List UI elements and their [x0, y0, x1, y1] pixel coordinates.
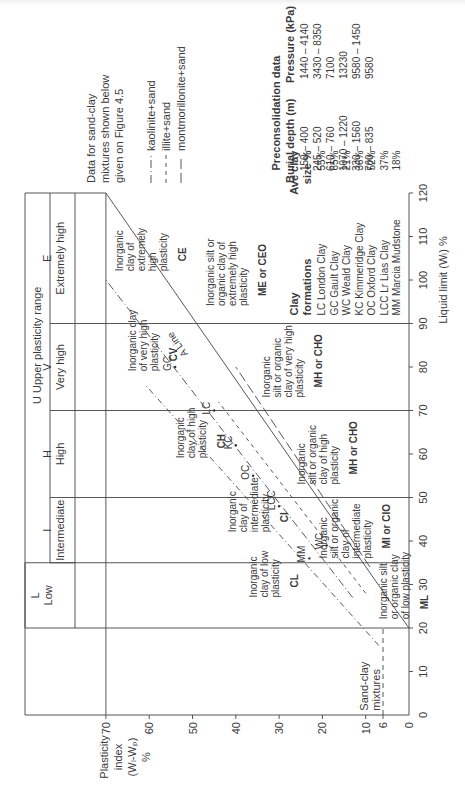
zone-label: organic clay of — [216, 241, 227, 306]
clay-point-label: MM — [296, 546, 307, 563]
zone-label: plasticity — [329, 446, 340, 484]
formation-clay-size: 55% — [316, 150, 327, 170]
formation-name: MM Marcia Mudstone — [391, 219, 402, 316]
preconsolidation-title: Preconsolidation data — [270, 55, 282, 171]
range-name-E: Extremely high — [54, 222, 66, 295]
zone-label: clay of — [340, 529, 351, 558]
clay-point-LCC — [278, 505, 280, 507]
zone-label: clay of high — [318, 434, 329, 485]
formation-name: GC Gault Clay — [329, 251, 340, 315]
zone-label: Inorganic silt — [378, 563, 389, 619]
zone-label: extremely — [136, 228, 147, 271]
zone-label: plasticity — [362, 520, 373, 558]
y-tick-label: 30 — [273, 722, 285, 734]
zone-label: plasticity — [270, 559, 281, 597]
clay-point-label: LC — [201, 402, 212, 415]
formation-clay-size: 21% — [341, 150, 352, 170]
formations-header: Ave clay — [288, 150, 300, 195]
x-tick-label: 10 — [417, 665, 429, 677]
y-tick-label: 10 — [360, 722, 372, 734]
zone-label: clay of very high — [283, 325, 294, 397]
zone-label: clay of high — [186, 408, 197, 459]
zone-label: Inorganic — [114, 230, 125, 271]
zone-label: extremely high — [227, 241, 238, 306]
zone-label: plasticity — [149, 333, 160, 371]
zone-label: plasticity — [238, 268, 249, 306]
formation-name: LC London Clay — [316, 244, 327, 316]
x-tick-label: 120 — [417, 184, 429, 202]
x-tick-label: 50 — [417, 491, 429, 503]
zone-label: plasticity — [158, 233, 169, 271]
preconsolidation-pressure: 9580 — [364, 56, 375, 79]
formations-header: formations — [301, 259, 313, 316]
legend-note: mixtures shown below — [99, 75, 111, 183]
clay-point-KC — [235, 444, 237, 446]
zone-label: silt or organic — [272, 338, 283, 397]
range-name-V: Very high — [54, 344, 66, 390]
legend-note: Data for sand-clay — [85, 93, 97, 183]
x-tick-label: 60 — [417, 448, 429, 460]
plasticity-chart: 1020304050607080901001101200610203040506… — [0, 0, 465, 809]
formation-clay-size: 65% — [329, 150, 340, 170]
sand-clay-label: Sand-clay — [358, 661, 370, 710]
zone-label: intermediate — [249, 477, 260, 532]
y-tick-label: 0 — [403, 722, 415, 728]
legend-item: kaolinite+sand — [145, 80, 157, 151]
upper-plasticity-range-label: U Upper plasticity range — [31, 287, 43, 404]
clay-point-label: KC — [223, 435, 234, 449]
zone-label: clay of low — [259, 550, 270, 597]
y-tick-label: 20 — [316, 722, 328, 734]
zone-code: MH or CHO — [313, 334, 324, 388]
preconsolidation-pressure: 7100 — [325, 56, 336, 79]
x-tick-label: 90 — [417, 317, 429, 329]
range-name-H: High — [54, 443, 66, 466]
sand-clay-label: mixtures — [370, 669, 382, 711]
zone-label: or organic clay — [389, 554, 400, 619]
legend-note: given on Figure 4.5 — [113, 89, 125, 183]
y-tick-label: 70 — [100, 722, 112, 734]
y-axis-label: Plasticity — [98, 735, 110, 779]
zone-label: Inorganic — [248, 556, 259, 597]
clay-point-label: GC — [162, 356, 173, 371]
x-tick-label: 0 — [417, 712, 429, 718]
x-tick-label: 30 — [417, 578, 429, 590]
clay-point-label: LCC — [266, 490, 277, 510]
clay-point-WC — [326, 544, 328, 546]
y-tick-label: 50 — [187, 722, 199, 734]
zone-label: of very high — [138, 320, 149, 372]
y-tick-label: 40 — [230, 722, 242, 734]
range-letter-H: H — [41, 450, 53, 458]
range-letter-L: L — [29, 592, 41, 598]
y-tick-label: 60 — [143, 722, 155, 734]
y-axis-label: % — [140, 752, 152, 762]
preconsolidation-pressure: 1440 – 4140 — [299, 23, 310, 79]
formation-clay-size: 52% — [366, 150, 377, 170]
zone-label: Inorganic clay — [127, 310, 138, 372]
clay-point-GC — [174, 366, 176, 368]
zone-label: Inorganic — [296, 443, 307, 484]
zone-code: CL — [289, 574, 300, 587]
formation-name: OC Oxford Clay — [366, 245, 377, 316]
formation-name: LCC Lr Lias Clay — [379, 240, 390, 316]
rotated-figure: 1020304050607080901001101200610203040506… — [0, 0, 465, 809]
preconsolidation-pressure: 13230 — [338, 51, 349, 79]
formation-clay-size: 18% — [391, 150, 402, 170]
x-tick-label: 80 — [417, 361, 429, 373]
zone-label: intermediate — [351, 503, 362, 558]
x-tick-label: 20 — [417, 622, 429, 634]
y-tick-label: 6 — [377, 722, 389, 728]
preconsolidation-header: Pressure (kPa) — [284, 6, 296, 83]
preconsolidation-pressure: 3430 – 8350 — [312, 23, 323, 79]
clay-point-label: OC — [240, 465, 251, 480]
x-tick-label: 100 — [417, 271, 429, 289]
clay-point-MM — [308, 557, 310, 559]
clay-point-OC — [252, 475, 254, 477]
zone-code: ML — [419, 595, 430, 609]
zone-code: ME or CEO — [257, 244, 268, 296]
legend-item: montmorillonite+sand — [175, 46, 187, 151]
range-name-L: Low — [42, 585, 54, 605]
zone-code: CI — [279, 512, 290, 522]
zone-label: of low plasticity — [400, 552, 411, 619]
preconsolidation-pressure: 9580 – 1450 — [351, 23, 362, 79]
zone-label: silt or organic — [307, 425, 318, 484]
